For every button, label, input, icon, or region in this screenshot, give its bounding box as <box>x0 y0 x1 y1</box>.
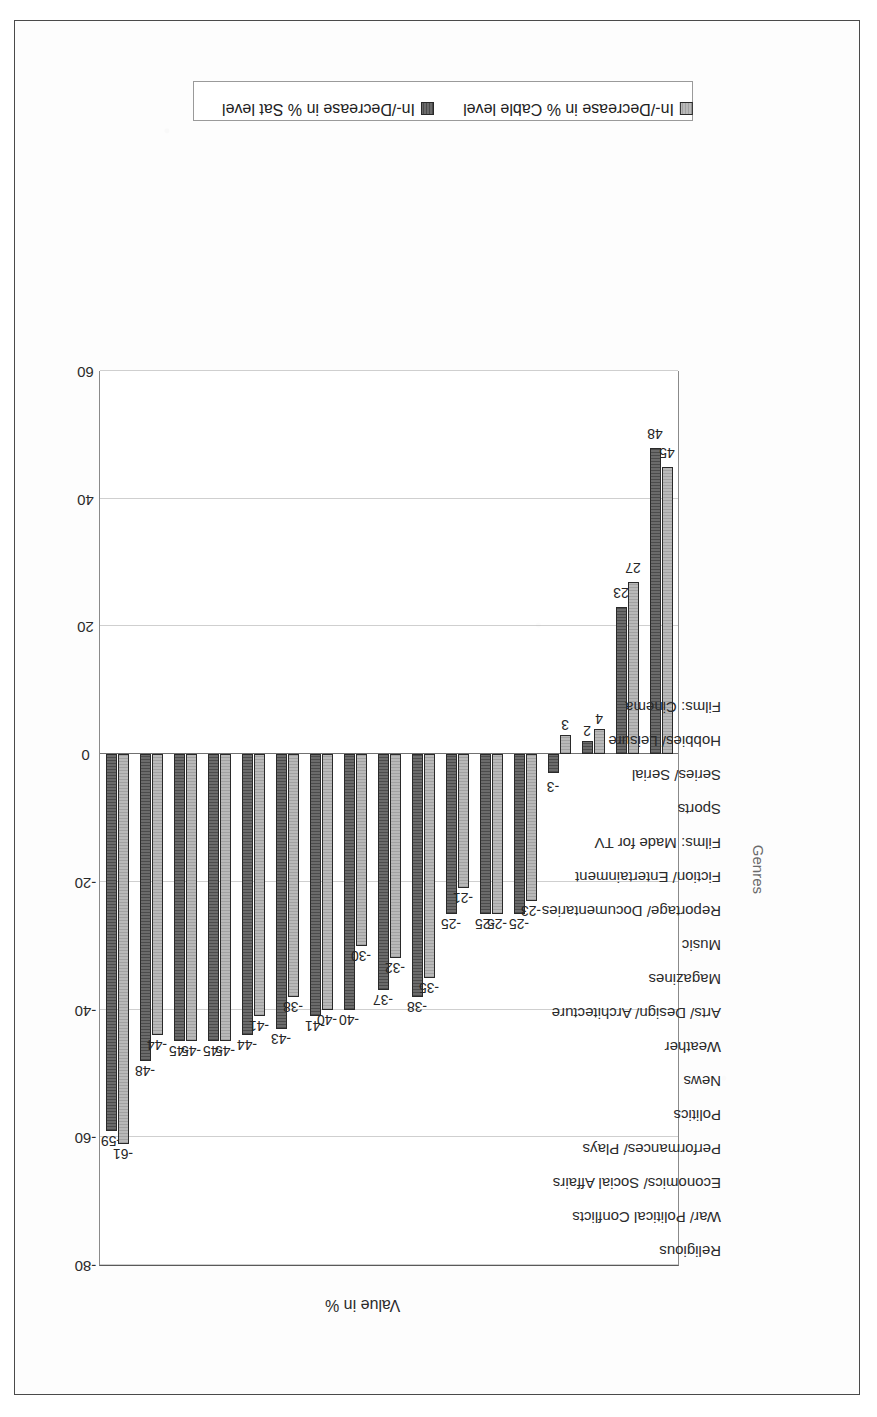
bar-value-label: -40 <box>317 1011 337 1027</box>
category-label-text: Religious <box>659 1243 721 1260</box>
bar <box>322 754 333 1009</box>
bar-value-label-wrap: -32 <box>387 958 403 978</box>
bar <box>424 754 435 978</box>
bar <box>526 754 537 901</box>
bar <box>220 754 231 1041</box>
bar-value-label-wrap: -37 <box>375 990 391 1010</box>
bar <box>390 754 401 958</box>
gridline <box>100 370 678 371</box>
value-tick-label: 40 <box>77 491 94 508</box>
bar-value-label: 23 <box>613 585 629 601</box>
category-label-text: Series/ Serial <box>632 767 721 784</box>
bar-value-label: -38 <box>283 999 303 1015</box>
value-tick-label: -60 <box>75 1130 97 1147</box>
category-label-text: Films: Made for TV <box>595 835 721 852</box>
bar <box>140 754 151 1061</box>
category-label-text: Arts/ Design/ Architecture <box>552 1005 721 1022</box>
value-tick-label: -40 <box>75 1002 97 1019</box>
category-label-text: Politics <box>673 1107 721 1124</box>
bar-value-label: -30 <box>351 948 371 964</box>
bar-value-label-wrap: 4 <box>591 715 607 723</box>
bar <box>310 754 321 1016</box>
bar-value-label-wrap: -40 <box>319 1009 335 1029</box>
bar-value-label: -44 <box>237 1037 257 1053</box>
bar <box>548 754 559 773</box>
bar-value-label-wrap: -25 <box>489 914 505 934</box>
value-axis-title: Value in % <box>325 1296 400 1314</box>
gridline <box>100 498 678 499</box>
bar-value-label: -25 <box>487 916 507 932</box>
bar <box>412 754 423 997</box>
bar-value-label-wrap: 27 <box>625 560 641 576</box>
bar <box>560 735 571 754</box>
bar-value-label-wrap: -44 <box>239 1035 255 1055</box>
legend-item[interactable]: In-/Decrease in % Cable level <box>444 80 694 120</box>
bar <box>344 754 355 1009</box>
bar-value-label: -44 <box>147 1037 167 1053</box>
plot-inner: -59-61-48-44-45-45-45-45-44-41-43-38-41-… <box>100 371 678 1265</box>
bar <box>480 754 491 914</box>
legend-swatch-icon <box>680 103 693 116</box>
category-label-text: Weather <box>665 1039 721 1056</box>
bar <box>152 754 163 1035</box>
bar <box>208 754 219 1041</box>
bar <box>186 754 197 1041</box>
bar <box>288 754 299 997</box>
value-tick-label: -80 <box>75 1258 97 1275</box>
bar-value-label: 4 <box>595 711 603 727</box>
bar-value-label: -21 <box>453 890 473 906</box>
category-label-text: Music <box>682 937 721 954</box>
legend-item[interactable]: In-/Decrease in % Sat level <box>194 80 444 120</box>
bar-value-label: 27 <box>625 560 641 576</box>
rotated-chart-stage: Value in % 6040200-20-40-60-80 -59-61-48… <box>15 21 861 1396</box>
bar <box>106 754 117 1131</box>
bar-value-label: 48 <box>647 426 663 442</box>
bar-value-label: -23 <box>521 903 541 919</box>
value-axis-ticks: 6040200-20-40-60-80 <box>75 371 99 1266</box>
bar-value-label: 2 <box>583 723 591 739</box>
bar <box>378 754 389 990</box>
bar-value-label-wrap: -30 <box>353 945 369 965</box>
value-tick-label: 0 <box>81 747 89 764</box>
bar <box>514 754 525 914</box>
bar-value-label-wrap: -41 <box>251 1016 267 1036</box>
bar-value-label: -45 <box>215 1043 235 1059</box>
bar-value-label-wrap: -21 <box>455 888 471 908</box>
bar-value-label-wrap: -38 <box>409 997 425 1017</box>
bar <box>356 754 367 946</box>
legend-label: In-/Decrease in % Cable level <box>463 100 674 118</box>
bar <box>458 754 469 888</box>
gridline <box>100 1136 678 1137</box>
bar <box>118 754 129 1144</box>
bar-value-label: -43 <box>271 1031 291 1047</box>
bar-value-label-wrap: -48 <box>137 1060 153 1080</box>
bar <box>492 754 503 914</box>
bar-value-label-wrap: 45 <box>659 445 675 461</box>
bar-value-label-wrap: -45 <box>217 1041 233 1061</box>
category-label-text: News <box>683 1073 721 1090</box>
bar <box>276 754 287 1029</box>
bar-value-label-wrap: -44 <box>149 1035 165 1055</box>
gridline <box>100 1264 678 1265</box>
category-label-text: Performances/ Plays <box>583 1141 721 1158</box>
category-label-text: War/ Political Conflicts <box>572 1209 721 1226</box>
value-tick-label: -20 <box>75 874 97 891</box>
bar-value-label: -37 <box>373 992 393 1008</box>
plot-area: -59-61-48-44-45-45-45-45-44-41-43-38-41-… <box>99 371 679 1266</box>
bar-value-label: -35 <box>419 980 439 996</box>
bar-value-label-wrap: 3 <box>557 721 573 729</box>
bar-value-label: -45 <box>181 1043 201 1059</box>
value-tick-label: 20 <box>77 619 94 636</box>
bar-value-label: 45 <box>659 445 675 461</box>
legend-label: In-/Decrease in % Sat level <box>222 100 415 118</box>
value-tick-label: 60 <box>77 364 94 381</box>
gridline <box>100 625 678 626</box>
bar <box>242 754 253 1035</box>
bar <box>254 754 265 1016</box>
bar-value-label: -41 <box>249 1018 269 1034</box>
chart-legend: In-/Decrease in % Sat levelIn-/Decrease … <box>193 81 693 121</box>
legend-swatch-icon <box>421 103 434 116</box>
category-label-text: Magazines <box>648 971 721 988</box>
bar-value-label: -32 <box>385 960 405 976</box>
category-axis-labels: ReligiousWar/ Political ConflictsEconomi… <box>691 371 721 1266</box>
